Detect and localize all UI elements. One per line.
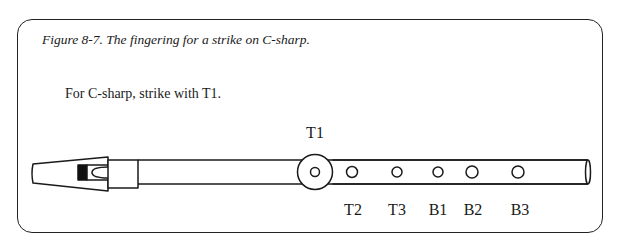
hole-label-t3: T3 xyxy=(388,201,406,219)
hole-label-b3: B3 xyxy=(511,201,530,219)
fipple-block xyxy=(78,165,87,180)
hole-label-t1: T1 xyxy=(306,124,324,142)
fipple-window xyxy=(92,167,108,178)
hole-label-b1: B1 xyxy=(429,201,448,219)
collar xyxy=(108,160,138,188)
hole-b3 xyxy=(512,166,524,178)
hole-b2 xyxy=(466,166,478,178)
hole-t2 xyxy=(347,167,358,178)
tube-end xyxy=(586,160,591,184)
hole-label-t2: T2 xyxy=(344,201,362,219)
hole-label-b2: B2 xyxy=(464,201,483,219)
hole-b1 xyxy=(433,167,443,177)
hole-t1 xyxy=(311,168,320,177)
hole-t3 xyxy=(392,167,402,177)
